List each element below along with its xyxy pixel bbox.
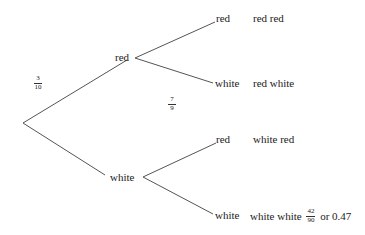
result-fraction: 42 90 (306, 208, 315, 224)
outcome-red-red: red red (253, 12, 284, 24)
leaf-red-white: white (215, 77, 239, 89)
leaf-white-white: white (215, 209, 239, 221)
node-red: red (115, 51, 129, 63)
leaf-white-red: red (216, 133, 230, 145)
outcome-white-white: white white 42 90 or 0.47 (250, 209, 351, 225)
branch-red-white (135, 58, 213, 83)
branch-white-white (143, 177, 213, 214)
branch-root-red (23, 60, 127, 123)
probability-red: 3 10 (34, 75, 42, 91)
branch-white-red (143, 143, 216, 177)
leaf-red-red: red (216, 12, 230, 24)
node-white: white (110, 171, 134, 183)
outcome-white-red: white red (253, 133, 294, 145)
tree-lines (0, 0, 365, 235)
probability-red-white: 7 9 (168, 96, 176, 112)
branch-root-white (23, 123, 105, 175)
branch-red-red (135, 22, 215, 58)
outcome-red-white: red white (253, 77, 294, 89)
